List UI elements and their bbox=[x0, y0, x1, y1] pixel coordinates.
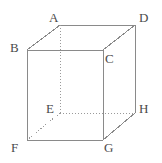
cube-svg bbox=[0, 0, 162, 163]
cube-edge-b-a bbox=[27, 25, 60, 50]
vertex-label-a: A bbox=[49, 11, 58, 24]
cube-edge-c-d bbox=[103, 25, 135, 50]
cube-diagram: ABCDEFGH bbox=[0, 0, 162, 163]
vertex-label-h: H bbox=[139, 102, 148, 115]
cube-edge-g-h bbox=[103, 113, 135, 140]
cube-edge-e-f bbox=[27, 113, 60, 140]
vertex-label-g: G bbox=[104, 141, 113, 154]
vertex-label-f: F bbox=[11, 141, 18, 154]
vertex-label-c: C bbox=[105, 52, 114, 65]
vertex-label-d: D bbox=[139, 11, 148, 24]
cube-edges-group bbox=[27, 25, 135, 140]
vertex-label-b: B bbox=[10, 41, 19, 54]
vertex-label-e: E bbox=[46, 102, 54, 115]
